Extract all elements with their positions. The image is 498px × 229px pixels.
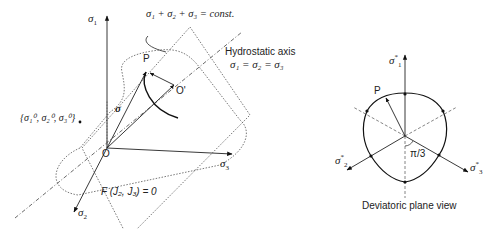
deviatoric-caption: Deviatoric plane view — [362, 200, 457, 211]
angle-label: π/3 — [410, 148, 425, 159]
reference-point-dot — [79, 121, 82, 124]
axis-sigma1-label: σ1 — [88, 12, 97, 27]
dev-axis-sigma3-label: σ*3 — [470, 160, 482, 176]
vector-oprime-p — [150, 73, 174, 85]
leader-curve — [146, 36, 166, 52]
dev-point-p-label: P — [374, 85, 381, 96]
plane-equation-label: σ₁ + σ₂ + σ₃ = const. — [146, 8, 234, 19]
origin-label: O — [102, 148, 110, 159]
vector-o-oprime — [107, 85, 174, 148]
reference-point-label: {σ₁⁰, σ₂⁰, σ₃⁰} — [20, 112, 75, 123]
yield-surface-outline — [56, 50, 246, 195]
yield-function-label: F (J₂, J₃) = 0 — [101, 186, 157, 197]
point-p-label: P — [143, 53, 150, 64]
axis-sigma3 — [107, 148, 232, 154]
point-o-prime-label: O' — [176, 85, 186, 96]
hydrostatic-axis-title: Hydrostatic axis — [225, 46, 296, 57]
dev-axis-sigma2 — [347, 136, 405, 170]
dev-axis-sigma2-label: σ*2 — [335, 153, 347, 169]
axis-sigma2-label: σ2 — [78, 206, 87, 221]
hydrostatic-equation: σ₁ = σ₂ = σ₃ — [230, 58, 284, 70]
angle-arc — [405, 141, 413, 146]
axis-sigma3-label: σ3 — [220, 157, 229, 172]
vector-sigma-label: σ — [115, 102, 121, 114]
dev-axis-sigma1-label: σ*1 — [389, 53, 401, 69]
